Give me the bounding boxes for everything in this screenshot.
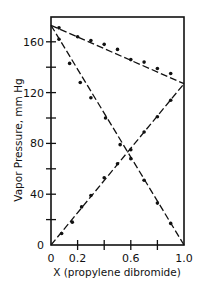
data-point: [78, 81, 82, 85]
data-point: [169, 72, 173, 76]
data-point: [60, 232, 64, 236]
data-point: [169, 222, 173, 226]
data-point: [89, 39, 93, 43]
data-point: [156, 115, 160, 119]
series-line-1: [51, 25, 184, 83]
y-tick-label: 160: [23, 36, 44, 49]
data-point: [156, 201, 160, 205]
data-point: [156, 67, 160, 71]
data-point: [102, 43, 106, 47]
y-tick-label: 120: [23, 87, 44, 100]
data-point: [80, 205, 84, 209]
series-line-3: [51, 25, 184, 245]
y-axis-title: Vapor Pressure, mm Hg: [12, 78, 24, 201]
x-tick-label: 0.6: [122, 252, 140, 265]
data-point: [89, 194, 93, 198]
data-point: [142, 178, 146, 182]
data-point: [102, 176, 106, 180]
data-point: [142, 60, 146, 64]
vapor-pressure-chart: 0408012016000.20.61.0 Vapor Pressure, mm…: [0, 0, 202, 298]
x-tick-label: 0.2: [69, 252, 87, 265]
data-point: [104, 116, 108, 120]
data-point: [57, 37, 61, 41]
data-point: [129, 148, 133, 152]
y-tick-label: 80: [30, 137, 44, 150]
axis-ticks: 0408012016000.20.61.0: [23, 36, 193, 265]
data-point: [116, 48, 120, 52]
data-point: [142, 130, 146, 134]
data-series: [51, 25, 184, 245]
data-point: [57, 26, 61, 30]
x-tick-label: 1.0: [175, 252, 193, 265]
data-point: [70, 220, 74, 224]
data-point: [118, 143, 122, 147]
data-point: [76, 35, 80, 39]
y-tick-label: 0: [37, 239, 44, 252]
data-point: [89, 96, 93, 100]
x-axis-title: X (propylene dibromide): [53, 266, 181, 278]
data-point: [68, 62, 72, 66]
x-tick-label: 0: [48, 252, 55, 265]
data-point: [169, 98, 173, 102]
data-point: [116, 162, 120, 166]
data-point: [129, 157, 133, 161]
data-point: [129, 58, 133, 62]
y-tick-label: 40: [30, 188, 44, 201]
